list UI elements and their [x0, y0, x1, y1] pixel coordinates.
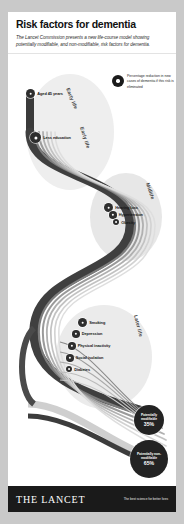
outcome-value: 35%	[144, 422, 154, 428]
legend: Percentage reduction in new cases of dem…	[112, 74, 174, 90]
outcome-potentially-modifiable[interactable]: Potentially modifiable 35%	[134, 405, 164, 435]
risk-factor-label: Smoking	[89, 320, 105, 325]
footer-tagline: The best science for better lives	[124, 497, 168, 501]
legend-marker-icon	[112, 75, 124, 87]
poster-footer: THE LANCET The best science for better l…	[8, 486, 176, 512]
risk-factor-label: Diabetes	[74, 367, 90, 372]
risk-factor-label: Aged 45 years	[37, 91, 63, 96]
risk-marker-icon	[109, 211, 117, 219]
risk-marker-icon	[30, 132, 41, 143]
risk-marker-icon	[68, 342, 76, 350]
legend-text: Percentage reduction in new cases of dem…	[127, 74, 174, 90]
risk-factor-label: Social isolation	[76, 355, 104, 360]
risk-factor-obesity[interactable]: Obesity	[113, 219, 135, 225]
risk-marker-icon	[78, 318, 87, 327]
risk-factor-social-isolation[interactable]: Social isolation	[66, 354, 103, 362]
risk-factor-diabetes[interactable]: Diabetes	[66, 366, 90, 372]
outcome-label: Potentially modifiable	[134, 413, 164, 421]
risk-marker-icon	[66, 354, 74, 362]
risk-factor-label: Less education	[43, 135, 71, 140]
risk-marker-icon	[113, 219, 119, 225]
risk-factor-smoking[interactable]: Smoking	[78, 318, 105, 327]
risk-marker-icon	[26, 89, 35, 98]
risk-factor-physical-inactivity[interactable]: Physical inactivity	[68, 342, 110, 350]
risk-marker-icon	[72, 330, 80, 338]
risk-factor-label: Hearing loss	[115, 205, 138, 210]
risk-factor-aged-45-years[interactable]: Aged 45 years	[26, 89, 63, 98]
outcome-value: 65%	[144, 461, 154, 467]
risk-factor-label: Hypertension	[119, 212, 143, 217]
lancet-logo: THE LANCET	[16, 494, 85, 505]
poster-header: Risk factors for dementia The Lancet Com…	[8, 12, 176, 54]
risk-factor-less-education[interactable]: Less education	[30, 132, 71, 143]
risk-factor-depression[interactable]: Depression	[72, 330, 102, 338]
outcome-potentially-non-modifiable[interactable]: Potentially non-modifiable 65%	[130, 440, 168, 478]
page-subtitle: The Lancet Commission presents a new lif…	[16, 34, 168, 49]
page-title: Risk factors for dementia	[16, 19, 168, 31]
risk-factor-label: Obesity	[121, 220, 135, 225]
outcome-label: Potentially non-modifiable	[130, 452, 168, 460]
risk-factor-hypertension[interactable]: Hypertension	[109, 211, 143, 219]
header-divider	[8, 53, 176, 54]
risk-marker-icon	[66, 366, 72, 372]
risk-factor-label: Depression	[82, 331, 103, 336]
risk-factor-label: Physical inactivity	[78, 343, 111, 348]
poster: Risk factors for dementia The Lancet Com…	[8, 12, 176, 512]
